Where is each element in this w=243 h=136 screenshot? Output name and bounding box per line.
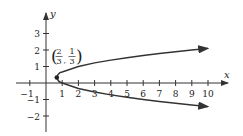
svg-text:2: 2: [56, 47, 61, 56]
x-axis-label: x: [224, 69, 230, 80]
y-axis-label: y: [49, 8, 56, 19]
svg-text:2: 2: [76, 89, 82, 99]
svg-text:1: 1: [69, 47, 74, 56]
svg-text:8: 8: [173, 89, 179, 99]
vertex-point: [55, 75, 60, 80]
svg-text:6: 6: [140, 89, 146, 99]
svg-text:1: 1: [34, 62, 40, 72]
svg-text:,: ,: [64, 56, 67, 65]
y-tick-labels: 3 2 1 −1 −2: [27, 29, 41, 122]
vertex-label: ( 2 3 , 1 3 ): [51, 46, 83, 66]
svg-text:−1: −1: [27, 95, 40, 105]
svg-text:9: 9: [189, 89, 195, 99]
svg-text:3: 3: [69, 57, 74, 66]
svg-text:3: 3: [56, 57, 61, 66]
svg-text:): ): [76, 46, 83, 66]
svg-text:−2: −2: [27, 112, 40, 122]
svg-text:1: 1: [59, 89, 65, 99]
svg-text:3: 3: [34, 29, 40, 39]
svg-text:2: 2: [34, 46, 40, 56]
svg-text:3: 3: [92, 89, 98, 99]
svg-text:10: 10: [202, 89, 214, 99]
parabola-chart: x y −1 1 2 3 4 5 6 7 8 9 10 3: [0, 0, 243, 136]
x-tick-labels: −1 1 2 3 4 5 6 7 8 9 10: [20, 89, 214, 99]
svg-text:7: 7: [157, 89, 163, 99]
